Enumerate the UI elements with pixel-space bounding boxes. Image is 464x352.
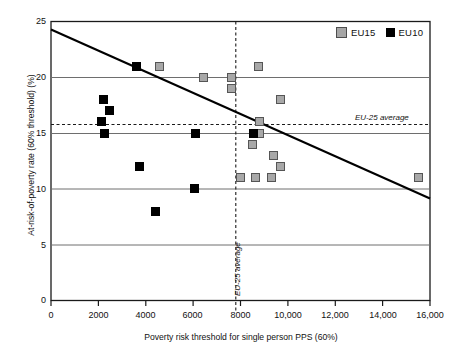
x-tick-label-12000: 12,000 (310, 310, 360, 320)
data-point-eu15 (267, 173, 276, 182)
data-point-eu15 (269, 151, 278, 160)
data-point-eu10 (132, 62, 141, 71)
x-tick-label-6000: 6000 (172, 310, 213, 320)
x-tick-label-16000: 16,000 (405, 310, 455, 320)
data-point-eu15 (199, 73, 208, 82)
data-point-eu10 (105, 106, 114, 115)
data-point-eu10 (151, 207, 160, 216)
legend-entry-eu15[interactable]: EU15 (336, 27, 376, 38)
x-tick-label-2000: 2000 (78, 310, 119, 320)
data-point-eu15 (276, 162, 285, 171)
scatter-chart: At-risk-of-poverty rate (60% threshold) … (0, 0, 464, 352)
black-square-icon (386, 28, 395, 37)
x-tick-label-10000: 10,000 (263, 310, 313, 320)
data-point-eu15 (254, 62, 263, 71)
data-point-eu10 (249, 129, 258, 138)
data-point-eu15 (227, 73, 236, 82)
data-point-eu10 (190, 184, 199, 193)
legend-label-eu15: EU15 (351, 27, 376, 38)
y-tick-label-10: 10 (20, 184, 46, 194)
vertical-reference-label: EU-25 average (233, 242, 242, 296)
gridlines (51, 78, 430, 246)
x-tick-label-4000: 4000 (125, 310, 166, 320)
data-point-eu15 (255, 117, 264, 126)
data-point-eu15 (276, 95, 285, 104)
x-tick-label-8000: 8000 (220, 310, 261, 320)
y-tick-label-15: 15 (20, 128, 46, 138)
gray-square-icon (336, 27, 347, 38)
data-point-eu10 (135, 162, 144, 171)
data-point-eu15 (251, 173, 260, 182)
data-point-eu15 (227, 84, 236, 93)
legend-label-eu10: EU10 (399, 27, 424, 38)
data-point-eu15 (236, 173, 245, 182)
data-point-eu10 (100, 129, 109, 138)
y-tick-label-0: 0 (20, 295, 46, 305)
y-tick-label-5: 5 (20, 240, 46, 250)
y-tick-label-25: 25 (20, 16, 46, 26)
legend-entry-eu10[interactable]: EU10 (386, 27, 424, 38)
y-tick-label-20: 20 (20, 72, 46, 82)
horizontal-reference-label: EU-25 average (355, 113, 409, 122)
data-point-eu15 (414, 173, 423, 182)
x-tick-marks (51, 301, 430, 307)
data-point-eu10 (191, 129, 200, 138)
plot-area (0, 0, 464, 352)
data-point-eu10 (97, 117, 106, 126)
data-point-eu15 (248, 140, 257, 149)
x-tick-label-0: 0 (41, 310, 61, 320)
legend: EU15 EU10 (336, 27, 423, 38)
data-point-eu15 (155, 62, 164, 71)
x-tick-label-14000: 14,000 (358, 310, 408, 320)
data-point-eu10 (99, 95, 108, 104)
